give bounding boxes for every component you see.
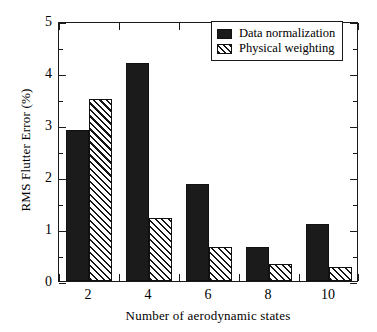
y-tick-major xyxy=(59,23,66,24)
bar-data-normalization-4 xyxy=(126,63,149,281)
x-tick-major-top xyxy=(179,23,180,30)
x-tick-major xyxy=(59,274,60,281)
y-tick-minor xyxy=(59,153,63,154)
y-tick-major xyxy=(59,231,66,232)
y-tick-label: 5 xyxy=(36,15,52,29)
y-tick-minor-right xyxy=(353,257,357,258)
x-tick-major xyxy=(239,274,240,281)
y-tick-minor xyxy=(59,257,63,258)
y-tick-label: 0 xyxy=(36,275,52,289)
bar-data-normalization-2 xyxy=(66,130,89,281)
y-axis-title: RMS Flutter Error (%) xyxy=(18,50,34,250)
y-tick-major-right xyxy=(350,75,357,76)
x-tick-major xyxy=(358,274,359,281)
bar-physical-weighting-10 xyxy=(329,267,352,281)
x-tick-label: 10 xyxy=(308,288,348,302)
y-tick-major xyxy=(59,75,66,76)
y-tick-minor xyxy=(59,101,63,102)
y-tick-minor xyxy=(59,205,63,206)
legend-entry-data-normalization: Data normalization xyxy=(217,26,335,41)
x-tick-label: 8 xyxy=(248,288,288,302)
y-tick-major xyxy=(59,283,66,284)
x-tick-major xyxy=(119,274,120,281)
y-tick-minor xyxy=(59,49,63,50)
legend-label: Physical weighting xyxy=(239,42,334,55)
x-tick-major-top xyxy=(119,23,120,30)
bar-physical-weighting-6 xyxy=(209,247,232,281)
x-tick-label: 4 xyxy=(128,288,168,302)
bar-physical-weighting-4 xyxy=(149,218,172,281)
y-tick-minor-right xyxy=(353,101,357,102)
bar-data-normalization-8 xyxy=(246,247,269,281)
y-tick-major xyxy=(59,179,66,180)
bar-data-normalization-10 xyxy=(306,224,329,281)
x-tick-label: 2 xyxy=(68,288,108,302)
x-tick-major-top xyxy=(59,23,60,30)
y-tick-labels: 012345 xyxy=(36,22,52,282)
y-tick-label: 3 xyxy=(36,119,52,133)
bar-physical-weighting-2 xyxy=(89,99,112,281)
y-tick-minor-right xyxy=(353,153,357,154)
legend-entry-physical-weighting: Physical weighting xyxy=(217,41,335,56)
x-axis-title: Number of aerodynamic states xyxy=(58,308,358,324)
x-tick-major xyxy=(179,274,180,281)
y-tick-minor-right xyxy=(353,49,357,50)
y-tick-minor-right xyxy=(353,205,357,206)
y-tick-major xyxy=(59,127,66,128)
plot-area xyxy=(58,22,358,282)
y-tick-label: 1 xyxy=(36,223,52,237)
x-tick-major xyxy=(299,274,300,281)
bar-physical-weighting-8 xyxy=(269,264,292,281)
hatched-square-icon xyxy=(217,44,232,54)
solid-square-icon xyxy=(217,29,232,39)
bar-data-normalization-6 xyxy=(186,184,209,281)
y-tick-label: 4 xyxy=(36,67,52,81)
chart-figure: RMS Flutter Error (%) 012345 246810 Numb… xyxy=(0,0,377,332)
y-tick-major-right xyxy=(350,231,357,232)
chart-legend: Data normalization Physical weighting xyxy=(211,21,343,61)
y-tick-major-right xyxy=(350,23,357,24)
y-tick-label: 2 xyxy=(36,171,52,185)
y-tick-major-right xyxy=(350,179,357,180)
legend-label: Data normalization xyxy=(239,27,335,40)
x-tick-major-top xyxy=(358,23,359,30)
y-tick-major-right xyxy=(350,127,357,128)
y-tick-major-right xyxy=(350,283,357,284)
x-tick-label: 6 xyxy=(188,288,228,302)
